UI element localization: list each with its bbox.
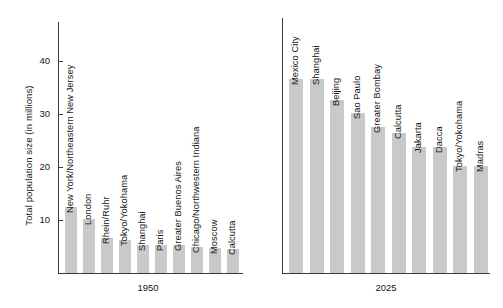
panel-caption-1950: 1950 — [108, 282, 188, 293]
bar-category-label: Paris — [155, 229, 165, 250]
chart-panel-2025: Mexico CityShanghaiBeijingSao PauloGreat… — [248, 0, 503, 308]
bar — [65, 207, 77, 273]
bar-category-label: London — [83, 194, 93, 225]
bar-category-label: Shanghai — [137, 211, 147, 251]
bar-category-label: Tokyo/Yokohama — [454, 101, 464, 172]
population-bar-chart-figure: Total population size (in millions) 1020… — [0, 0, 503, 308]
bar-category-label: Chicago/Northwestern Indiana — [191, 127, 201, 253]
bar-category-label: Tokyo/Yokohama — [119, 174, 129, 245]
bar-category-label: Rhein/Ruhr — [101, 196, 111, 244]
bar — [392, 133, 406, 273]
bar — [351, 113, 365, 273]
bar-category-label: New York/Northeastern New Jersey — [65, 65, 75, 213]
bar-category-label: Mexico City — [290, 36, 300, 85]
bar — [474, 166, 488, 273]
bar-category-label: Calcutta — [393, 105, 403, 140]
bar-category-label: Calcutta — [227, 220, 237, 255]
bar — [83, 219, 95, 273]
bar — [330, 100, 344, 273]
chart-panel-1950: 10203040 New York/Northeastern New Jerse… — [0, 0, 250, 308]
bar-category-label: Greater Bombay — [372, 64, 382, 133]
bar-category-label: Dacca — [434, 127, 444, 154]
bar-category-label: Madras — [475, 141, 485, 172]
bar-category-label: Sao Paulo — [352, 75, 362, 118]
bar-category-label: Beijing — [331, 78, 341, 106]
bar — [433, 147, 447, 273]
bar-category-label: Greater Buenos Aires — [173, 161, 183, 251]
bar — [453, 166, 467, 273]
panel-caption-2025: 2025 — [346, 282, 426, 293]
bar — [371, 127, 385, 273]
bar — [310, 79, 324, 273]
bar-category-label: Jakarta — [413, 122, 423, 153]
bar — [412, 147, 426, 273]
bar-group-2025: Mexico CityShanghaiBeijingSao PauloGreat… — [248, 0, 503, 308]
bar-category-label: Moscow — [209, 219, 219, 253]
bar-group-1950: New York/Northeastern New JerseyLondonRh… — [0, 0, 250, 308]
bar — [289, 79, 303, 273]
bar-category-label: Shanghai — [311, 45, 321, 85]
